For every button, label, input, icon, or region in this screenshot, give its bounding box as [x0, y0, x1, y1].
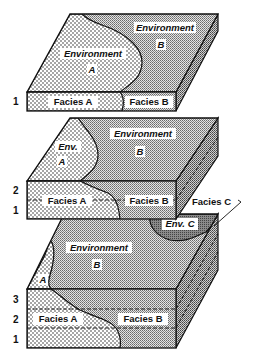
- layer-number: 1: [13, 334, 19, 345]
- facies-a-label-bottom: Facies A: [39, 313, 78, 324]
- facies-a-label-middle: Facies A: [48, 195, 87, 206]
- block-bottom: 3 2 1 Environment B A Env. C Facies A Fa…: [13, 214, 218, 348]
- env-a-letter-middle: A: [58, 156, 66, 167]
- env-b-label-middle: Environment: [114, 128, 173, 139]
- layer-number: 2: [13, 314, 19, 325]
- facies-a-label-top: Facies A: [54, 96, 93, 107]
- facies-diagram: 3 2 1 Environment B A Env. C Facies A Fa…: [0, 0, 259, 363]
- env-b-label-top: Environment: [136, 22, 195, 33]
- env-a-label-top: Environment: [64, 48, 123, 59]
- layer-number: 1: [13, 205, 19, 216]
- facies-c-callout: Facies C: [192, 196, 231, 207]
- env-b-label-bottom: Environment: [70, 242, 129, 253]
- env-a-label-bottom: A: [39, 274, 47, 285]
- layer-number: 2: [13, 185, 19, 196]
- block-top: 1 Environment B Environment A Facies A F…: [13, 14, 218, 111]
- env-b-letter-middle: B: [137, 146, 144, 157]
- layer-number: 1: [13, 96, 19, 107]
- facies-b-label-bottom: Facies B: [123, 313, 162, 324]
- facies-b-label-middle: Facies B: [129, 195, 168, 206]
- block-middle: 2 1 Environment B Env. A Facies A Facies…: [13, 118, 241, 226]
- env-a-label-middle: Env.: [58, 141, 78, 152]
- facies-b-label-top: Facies B: [129, 96, 168, 107]
- env-b-letter-top: B: [158, 39, 165, 50]
- env-b-letter-bottom: B: [94, 259, 101, 270]
- layer-number: 3: [13, 294, 19, 305]
- env-a-letter-top: A: [88, 64, 96, 75]
